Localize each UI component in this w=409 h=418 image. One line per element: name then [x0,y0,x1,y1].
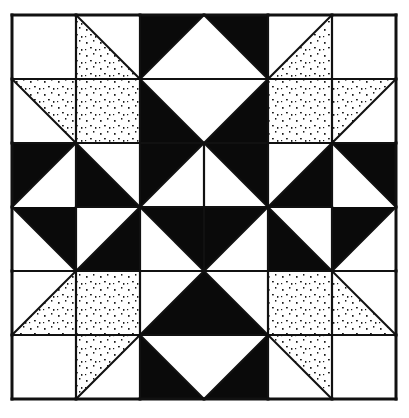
quilt-cell-r3-c5 [332,207,396,271]
quilt-block-figure [0,0,409,418]
patch-dotted [268,271,332,335]
quilt-cell-r1-c4 [268,79,332,143]
quilt-cell-r4-c4 [268,271,332,335]
patch-dotted [268,79,332,143]
quilt-cell-r2-c3 [204,143,268,207]
patch-dotted [76,271,140,335]
quilt-cell-r4-c1 [76,271,140,335]
quilt-cell-r5-c1 [76,335,140,399]
patch-white [332,335,396,399]
quilt-cell-r4-c2 [140,271,204,335]
quilt-cell-r1-c1 [76,79,140,143]
quilt-cell-r3-c3 [204,207,268,271]
quilt-cell-r4-c0 [12,271,76,335]
patch-white [12,335,76,399]
quilt-cell-r2-c5 [332,143,396,207]
quilt-cell-r4-c5 [332,271,396,335]
quilt-cell-r0-c4 [268,15,332,79]
quilt-cell-r3-c4 [268,207,332,271]
quilt-cell-r5-c2 [140,335,204,399]
patch-white [12,15,76,79]
quilt-cell-r5-c0 [12,335,76,399]
quilt-cell-r1-c3 [204,79,268,143]
quilt-cell-r5-c5 [332,335,396,399]
quilt-cell-r2-c0 [12,143,76,207]
quilt-cell-r3-c2 [140,207,204,271]
patch-white [332,15,396,79]
quilt-cell-r0-c3 [204,15,268,79]
quilt-cell-r1-c2 [140,79,204,143]
quilt-cell-r3-c0 [12,207,76,271]
quilt-cell-r2-c2 [140,143,204,207]
quilt-cell-r0-c0 [12,15,76,79]
quilt-cell-r2-c4 [268,143,332,207]
quilt-cell-r4-c3 [204,271,268,335]
quilt-cell-r1-c0 [12,79,76,143]
quilt-cell-r0-c2 [140,15,204,79]
quilt-cell-r0-c5 [332,15,396,79]
quilt-cell-r0-c1 [76,15,140,79]
patch-dotted [76,79,140,143]
quilt-cell-r1-c5 [332,79,396,143]
quilt-cell-r5-c3 [204,335,268,399]
quilt-cell-r3-c1 [76,207,140,271]
quilt-cell-r5-c4 [268,335,332,399]
quilt-cell-r2-c1 [76,143,140,207]
